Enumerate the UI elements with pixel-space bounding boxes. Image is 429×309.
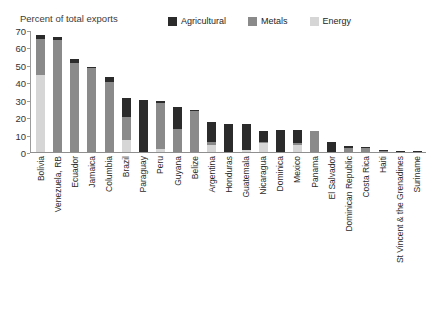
bar-slot — [289, 31, 306, 152]
bar-guyana[interactable] — [173, 107, 182, 152]
bar-dominican-republic[interactable] — [344, 146, 353, 152]
x-tick-label: Belize — [190, 156, 199, 179]
bar-jamaica[interactable] — [87, 67, 96, 152]
bar-segment-metals — [173, 129, 182, 152]
bar-segment-agricultural — [327, 142, 336, 152]
x-tick-label: Nicaragua — [259, 156, 268, 195]
bar-slot — [203, 31, 220, 152]
bar-segment-metals — [310, 131, 319, 152]
bar-paraguay[interactable] — [139, 100, 148, 152]
bar-haiti[interactable] — [379, 150, 388, 152]
bar-segment-agricultural — [293, 130, 302, 143]
bar-segment-metals — [53, 40, 62, 152]
bar-segment-energy — [36, 75, 45, 152]
bar-segment-metals — [190, 111, 199, 152]
bar-mexico[interactable] — [293, 130, 302, 152]
legend-label-agricultural: Agricultural — [181, 16, 226, 26]
bar-bolivia[interactable] — [36, 35, 45, 152]
bar-segment-metals — [379, 151, 388, 152]
bar-belize[interactable] — [190, 110, 199, 152]
bar-columbia[interactable] — [105, 77, 114, 152]
x-label-slot: Paraguay — [135, 156, 152, 306]
y-tick-label: 0 — [21, 148, 26, 159]
bar-el-salvador[interactable] — [327, 142, 336, 152]
bar-slot — [272, 31, 289, 152]
bar-segment-energy — [207, 145, 216, 152]
legend-label-energy: Energy — [323, 16, 352, 26]
bar-segment-agricultural — [139, 100, 148, 152]
bar-slot — [392, 31, 409, 152]
x-tick-label: Argentina — [208, 156, 217, 192]
x-label-slot: Honduras — [220, 156, 237, 306]
x-label-slot: Ecuador — [66, 156, 83, 306]
x-label-slot: Columbia — [101, 156, 118, 306]
x-label-slot: Nicaragua — [255, 156, 272, 306]
bar-brazil[interactable] — [122, 98, 131, 152]
bar-segment-agricultural — [122, 98, 131, 117]
x-label-slot: El Salvador — [323, 156, 340, 306]
bar-slot — [323, 31, 340, 152]
x-tick-label: El Salvador — [327, 156, 336, 199]
bar-nicaragua[interactable] — [259, 131, 268, 152]
bar-slot — [169, 31, 186, 152]
legend-item-energy[interactable]: Energy — [310, 16, 352, 26]
x-tick-label: Panama — [310, 156, 319, 188]
chart-container: Percent of total exports Agricultural Me… — [0, 0, 429, 309]
x-label-slot: Argentina — [203, 156, 220, 306]
bar-ecuador[interactable] — [70, 59, 79, 152]
x-label-slot: St Vincent & the Grenadines — [392, 156, 409, 306]
bar-guatemala[interactable] — [242, 124, 251, 152]
bar-segment-metals — [122, 117, 131, 140]
bar-costa-rica[interactable] — [361, 147, 370, 152]
bar-panama[interactable] — [310, 131, 319, 152]
x-label-slot: Belize — [186, 156, 203, 306]
y-tick-label: 70 — [15, 26, 26, 37]
bar-slot — [409, 31, 426, 152]
bar-slot — [118, 31, 135, 152]
y-tick-mark — [27, 48, 30, 49]
legend-item-agricultural[interactable]: Agricultural — [168, 16, 226, 26]
bar-slot — [375, 31, 392, 152]
legend-item-metals[interactable]: Metals — [248, 16, 288, 26]
bar-segment-agricultural — [396, 151, 405, 152]
x-tick-label: Suriname — [413, 156, 422, 192]
x-label-slot: Haiti — [375, 156, 392, 306]
legend-swatch-agricultural — [168, 17, 177, 26]
bar-segment-energy — [259, 143, 268, 152]
bar-segment-agricultural — [224, 124, 233, 152]
bar-segment-metals — [105, 82, 114, 152]
bar-honduras[interactable] — [224, 124, 233, 152]
bar-slot — [238, 31, 255, 152]
bar-peru[interactable] — [156, 101, 165, 152]
x-tick-label: Mexico — [293, 156, 302, 183]
x-label-slot: Dominican Republic — [340, 156, 357, 306]
bar-st-vincent-the-grenadines[interactable] — [396, 151, 405, 152]
x-tick-label: Dominican Republic — [345, 156, 354, 232]
bar-slot — [220, 31, 237, 152]
x-label-slot: Costa Rica — [357, 156, 374, 306]
bar-venezuela-rb[interactable] — [53, 37, 62, 152]
y-tick-mark — [27, 153, 30, 154]
chart-legend: Agricultural Metals Energy — [168, 16, 351, 26]
x-label-slot: Suriname — [409, 156, 426, 306]
x-label-slot: Jamaica — [83, 156, 100, 306]
bar-dominica[interactable] — [276, 130, 285, 152]
bar-segment-metals — [344, 148, 353, 152]
bar-segment-agricultural — [173, 107, 182, 130]
bar-series-group — [32, 31, 426, 152]
x-label-slot: Brazil — [118, 156, 135, 306]
x-tick-label: Jamaica — [88, 156, 97, 188]
bar-slot — [340, 31, 357, 152]
x-label-slot: Venezuela, RB — [49, 156, 66, 306]
x-label-slot: Dominica — [272, 156, 289, 306]
bar-suriname[interactable] — [413, 151, 422, 152]
x-tick-label: Guyana — [173, 156, 182, 186]
y-tick-label: 20 — [15, 113, 26, 124]
x-tick-label: St Vincent & the Grenadines — [396, 156, 405, 263]
bar-argentina[interactable] — [207, 122, 216, 152]
x-tick-label: Columbia — [105, 156, 114, 192]
y-tick-mark — [27, 118, 30, 119]
bar-segment-energy — [156, 149, 165, 152]
plot-area: 010203040506070 — [30, 31, 426, 153]
legend-swatch-metals — [248, 17, 257, 26]
